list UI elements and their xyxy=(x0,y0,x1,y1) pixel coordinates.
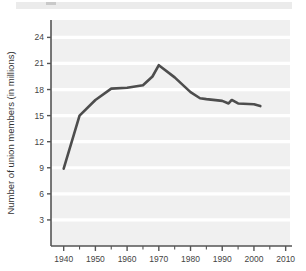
y-axis-tick-labels: 3691215182124 xyxy=(35,32,45,225)
x-axis-tick-label: 1990 xyxy=(213,254,232,264)
y-axis-tick-label: 15 xyxy=(35,111,45,121)
y-axis-tick-label: 3 xyxy=(39,215,44,225)
x-axis-tick-label: 1970 xyxy=(149,254,168,264)
y-axis-title: Number of union members (in millions) xyxy=(5,51,16,214)
y-axis-tick-label: 18 xyxy=(35,85,45,95)
x-axis-tick-label: 2010 xyxy=(276,254,295,264)
y-axis-tick-label: 12 xyxy=(35,137,45,147)
y-axis-tick-label: 21 xyxy=(35,58,45,68)
x-axis-tick-label: 2000 xyxy=(244,254,263,264)
y-axis-tick-label: 6 xyxy=(39,189,44,199)
y-axis-tick-label: 24 xyxy=(35,32,45,42)
plot-area-background xyxy=(51,20,290,246)
chart-figure: 3691215182124 19401950196019701980199020… xyxy=(0,0,306,271)
x-axis-tick-label: 1940 xyxy=(54,254,73,264)
y-axis-tick-label: 9 xyxy=(39,163,44,173)
union-membership-line-chart: 3691215182124 19401950196019701980199020… xyxy=(0,0,306,271)
x-axis-tick-label: 1950 xyxy=(86,254,105,264)
x-axis-tick-labels: 19401950196019701980199020002010 xyxy=(54,254,295,264)
x-axis-tick-label: 1960 xyxy=(118,254,137,264)
x-axis-tick-label: 1980 xyxy=(181,254,200,264)
